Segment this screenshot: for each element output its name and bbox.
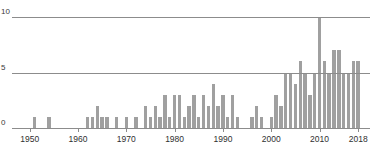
bar	[173, 95, 176, 128]
bar	[105, 117, 108, 128]
bar-chart: 0510 19501960197019801990200020102018	[0, 0, 372, 155]
bar	[342, 73, 345, 129]
x-tick-2018	[358, 128, 359, 132]
bar	[270, 117, 273, 128]
bar	[47, 117, 50, 128]
bar	[100, 117, 103, 128]
bar	[86, 117, 89, 128]
bar	[299, 61, 302, 128]
bar	[192, 95, 195, 128]
x-tick-1990	[223, 128, 224, 132]
bar	[168, 117, 171, 128]
x-tick-label-1970: 1970	[117, 134, 136, 144]
bar	[178, 95, 181, 128]
x-tick-label-2018: 2018	[349, 134, 368, 144]
bar	[154, 106, 157, 128]
bar	[255, 106, 258, 128]
bar	[158, 117, 161, 128]
bar	[332, 50, 335, 128]
y-tick-label-10: 10	[1, 7, 10, 16]
bar	[226, 117, 229, 128]
bar	[96, 106, 99, 128]
bar	[347, 73, 350, 129]
bars-layer	[0, 0, 372, 129]
bar	[144, 106, 147, 128]
bar	[212, 84, 215, 128]
x-tick-label-1980: 1980	[165, 134, 184, 144]
x-tick-1950	[30, 128, 31, 132]
x-tick-2010	[320, 128, 321, 132]
bar	[337, 50, 340, 128]
bar	[250, 117, 253, 128]
bar	[125, 117, 128, 128]
bar	[327, 73, 330, 129]
bar	[289, 73, 292, 129]
bar	[216, 106, 219, 128]
bar	[231, 95, 234, 128]
y-tick-label-5: 5	[1, 63, 5, 72]
gridline-10	[12, 17, 370, 18]
bar	[274, 95, 277, 128]
gridline-5	[12, 73, 370, 74]
bar	[294, 84, 297, 128]
bar	[323, 61, 326, 128]
bar	[91, 117, 94, 128]
y-tick-label-0: 0	[1, 118, 5, 127]
x-tick-label-2010: 2010	[310, 134, 329, 144]
bar	[183, 117, 186, 128]
bar	[352, 61, 355, 128]
bar	[221, 95, 224, 128]
x-tick-label-1990: 1990	[213, 134, 232, 144]
bar	[163, 95, 166, 128]
bar	[260, 117, 263, 128]
bar	[115, 117, 118, 128]
plot-area: 0510	[0, 0, 372, 129]
bar	[33, 117, 36, 128]
bar	[303, 73, 306, 129]
bar	[356, 61, 359, 128]
bar	[308, 95, 311, 128]
bar	[149, 117, 152, 128]
x-axis: 19501960197019801990200020102018	[0, 128, 372, 155]
bar	[134, 117, 137, 128]
bar	[187, 106, 190, 128]
bar	[207, 106, 210, 128]
bar	[279, 106, 282, 128]
x-tick-1970	[126, 128, 127, 132]
bar	[284, 73, 287, 129]
x-tick-1960	[78, 128, 79, 132]
x-tick-label-1960: 1960	[69, 134, 88, 144]
x-tick-label-2000: 2000	[262, 134, 281, 144]
bar	[313, 73, 316, 129]
x-tick-1980	[175, 128, 176, 132]
bar	[202, 95, 205, 128]
bar	[197, 117, 200, 128]
x-tick-label-1950: 1950	[20, 134, 39, 144]
bar	[236, 117, 239, 128]
x-tick-2000	[271, 128, 272, 132]
